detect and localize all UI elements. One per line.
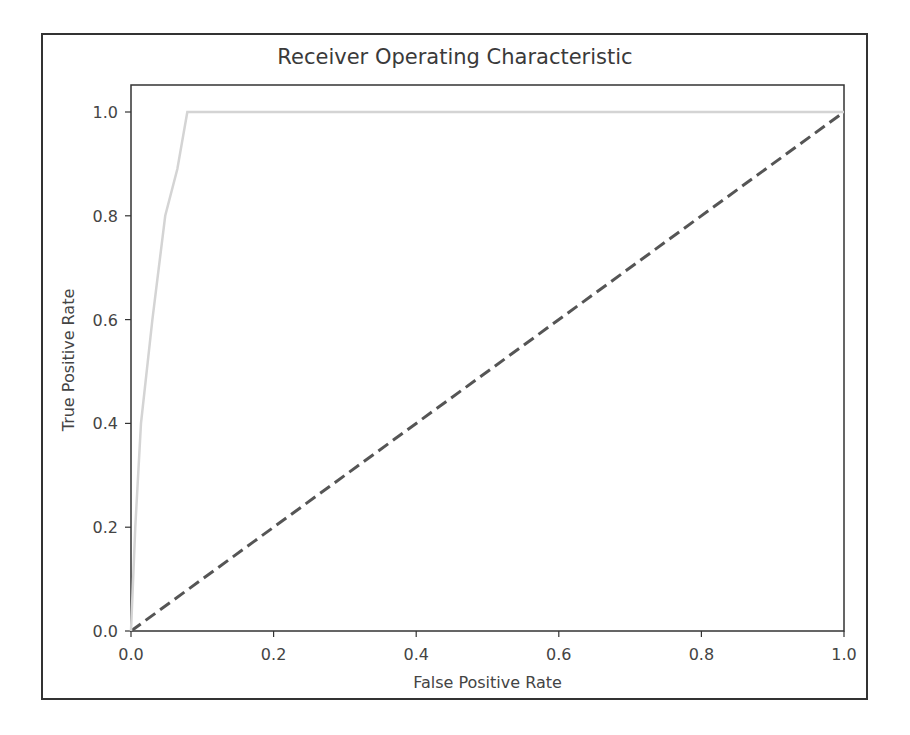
x-axis-label: False Positive Rate xyxy=(131,673,844,692)
x-tick-label: 0.8 xyxy=(689,645,714,664)
y-tick-label: 0.6 xyxy=(93,310,118,329)
random-classifier-line xyxy=(131,112,844,631)
x-tick-label: 1.0 xyxy=(831,645,856,664)
x-tick-label: 0.2 xyxy=(261,645,286,664)
y-tick-label: 0.8 xyxy=(93,206,118,225)
x-tick-label: 0.0 xyxy=(118,645,143,664)
y-tick-label: 0.2 xyxy=(93,518,118,537)
plot-area xyxy=(0,0,910,735)
y-tick-label: 0.0 xyxy=(93,622,118,641)
x-tick-label: 0.4 xyxy=(403,645,428,664)
y-tick-label: 0.4 xyxy=(93,414,118,433)
axes xyxy=(131,85,844,631)
x-tick-label: 0.6 xyxy=(546,645,571,664)
y-axis-label: True Positive Rate xyxy=(59,289,78,432)
y-tick-label: 1.0 xyxy=(93,103,118,122)
